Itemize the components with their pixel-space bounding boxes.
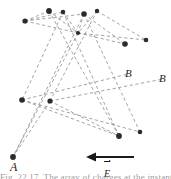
- charge-dot: [116, 133, 122, 139]
- dashed-trajectory-line: [13, 101, 50, 157]
- dashed-trajectory-line: [13, 33, 78, 157]
- dashed-trajectory-line: [63, 12, 119, 136]
- charge-dot: [47, 98, 52, 103]
- dashed-trajectory-line: [50, 101, 119, 136]
- dashed-line-group: [13, 11, 163, 157]
- charge-dot: [76, 31, 80, 35]
- charge-dot: [22, 18, 27, 23]
- charge-dot: [122, 41, 128, 47]
- charge-dot: [138, 130, 143, 135]
- dashed-trajectory-line: [97, 11, 146, 40]
- dashed-trajectory-line: [84, 14, 125, 44]
- dashed-trajectory-line: [13, 14, 84, 157]
- charge-dot: [81, 11, 87, 17]
- label-point-b-outer: B: [159, 73, 166, 84]
- vector-overbar-icon: [104, 161, 110, 162]
- dashed-trajectory-line: [49, 11, 119, 136]
- dashed-trajectory-line: [78, 33, 146, 40]
- dashed-trajectory-line: [22, 100, 119, 136]
- physics-figure: A B B E Fig. 22.17. The array of charges…: [0, 0, 171, 179]
- charge-dot: [61, 10, 66, 15]
- dashed-trajectory-line: [50, 79, 163, 101]
- label-point-b-inner: B: [125, 68, 132, 79]
- field-arrow-head-icon: [86, 153, 96, 162]
- dashed-trajectory-line: [49, 11, 78, 33]
- dashed-trajectory-line: [25, 21, 78, 33]
- dashed-trajectory-line: [78, 14, 84, 33]
- charge-dot: [95, 9, 99, 13]
- charge-dot: [144, 38, 149, 43]
- charge-dot-group: [10, 8, 148, 160]
- trajectory-diagram-canvas: [0, 0, 171, 179]
- charge-dot: [19, 97, 25, 103]
- charge-dot: [46, 8, 52, 14]
- figure-caption: Fig. 22.17. The array of charges at the …: [0, 172, 171, 179]
